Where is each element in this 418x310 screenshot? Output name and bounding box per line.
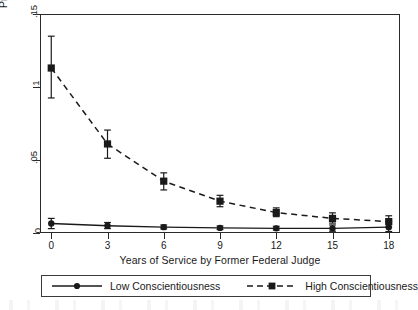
series-layer — [40, 14, 400, 233]
legend-label-low-conscientiousness: Low Conscientiousness — [110, 280, 220, 292]
x-tick-1 — [108, 233, 109, 239]
x-tick-label-6: 18 — [374, 240, 404, 251]
x-tick-6 — [389, 233, 390, 239]
series-low-conscientiousness — [48, 218, 392, 231]
marker-square-1 — [104, 140, 111, 147]
chart-legend: Low Conscientiousness High Conscientious… — [41, 275, 371, 297]
marker-circle-2 — [161, 224, 167, 230]
legend-entry-low-conscientiousness: Low Conscientiousness — [51, 276, 220, 296]
y-tick-2 — [33, 87, 40, 88]
y-tick-3 — [33, 14, 40, 15]
marker-square-4 — [273, 209, 280, 216]
marker-circle-3 — [217, 225, 223, 231]
x-tick-2 — [164, 233, 165, 239]
x-axis-title: Years of Service by Former Federal Judge — [40, 254, 400, 266]
x-tick-label-4: 12 — [261, 240, 291, 251]
x-tick-label-1: 3 — [93, 240, 123, 251]
scan-artifact — [0, 300, 412, 310]
legend-entry-high-conscientiousness: High Conscientiousness — [246, 276, 418, 296]
x-tick-label-0: 0 — [36, 240, 66, 251]
marker-square-0 — [48, 64, 55, 71]
x-tick-5 — [333, 233, 334, 239]
marker-circle-0 — [48, 220, 54, 226]
y-tick-label-2: .1 — [0, 79, 40, 90]
marker-square-5 — [329, 215, 336, 222]
y-tick-label-3: .15 — [0, 6, 40, 17]
y-tick-0 — [33, 233, 40, 234]
legend-label-high-conscientiousness: High Conscientiousness — [305, 280, 418, 292]
series-high-conscientiousness — [48, 36, 393, 227]
x-tick-3 — [220, 233, 221, 239]
dashed-square-key — [246, 280, 298, 292]
x-tick-label-3: 9 — [205, 240, 235, 251]
y-tick-label-1: .05 — [0, 152, 40, 163]
y-tick-1 — [33, 160, 40, 161]
marker-circle-5 — [329, 225, 335, 231]
marker-square-3 — [216, 198, 223, 205]
marker-square-6 — [385, 218, 392, 225]
marker-circle-1 — [104, 223, 110, 229]
marker-square-2 — [160, 178, 167, 185]
marker-circle-4 — [273, 225, 279, 231]
x-tick-4 — [276, 233, 277, 239]
x-tick-label-5: 15 — [318, 240, 348, 251]
x-tick-0 — [51, 233, 52, 239]
x-tick-label-2: 6 — [149, 240, 179, 251]
y-tick-label-0: 0 — [0, 225, 40, 236]
solid-circle-key — [51, 280, 103, 292]
